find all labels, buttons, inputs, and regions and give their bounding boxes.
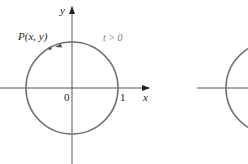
right-figure [197, 42, 248, 134]
unit-circle-diagrams: y x 0 1 P(x, y) t > 0 [0, 0, 248, 164]
condition-label: t > 0 [103, 32, 123, 43]
x-axis-label: x [142, 91, 148, 103]
point-label: P(x, y) [17, 30, 48, 43]
origin-label: 0 [64, 91, 70, 103]
point-p-marker [48, 47, 51, 50]
unit-label: 1 [120, 91, 126, 103]
y-axis-label: y [59, 4, 65, 16]
left-figure: y x 0 1 P(x, y) t > 0 [0, 4, 149, 164]
